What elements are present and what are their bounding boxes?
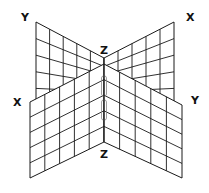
label-front-right-y: Y: [190, 94, 200, 107]
label-back-right-x: X: [186, 11, 195, 24]
planes-diagram: Y X Z X Y Z: [0, 0, 209, 193]
label-bottom-z: Z: [100, 148, 108, 161]
label-back-left-y: Y: [20, 11, 30, 24]
label-front-left-x: X: [13, 96, 22, 109]
label-top-z: Z: [100, 44, 108, 57]
